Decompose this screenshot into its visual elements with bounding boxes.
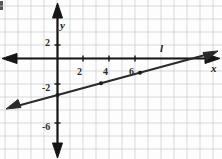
x-tick-label-2: 2 (77, 67, 82, 77)
line-arrow-left (6, 100, 21, 110)
plotted-line-l (6, 51, 218, 109)
data-point-y-intercept (56, 93, 60, 97)
data-point-mid (99, 81, 103, 85)
data-point-right (138, 71, 142, 75)
x-tick-label-6: 6 (129, 67, 134, 77)
line-label-l: l (160, 43, 163, 54)
y-tick-label-neg2: -2 (42, 83, 50, 93)
coordinate-plane (0, 0, 222, 159)
x-axis-arrow-left (2, 54, 17, 64)
graph-figure: y x l 2 -2 -6 2 4 6 (0, 0, 222, 159)
y-axis-arrow-up (53, 3, 63, 18)
y-tick-label-2: 2 (45, 38, 50, 48)
y-axis-label: y (60, 20, 65, 31)
x-axis-label: x (211, 63, 217, 74)
y-axis-arrow-down (53, 143, 63, 158)
x-tick-label-4: 4 (103, 67, 108, 77)
y-tick-label-neg6: -6 (42, 122, 50, 132)
